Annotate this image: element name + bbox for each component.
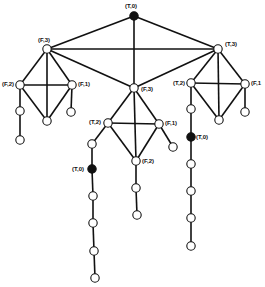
open-node xyxy=(155,120,163,128)
open-node xyxy=(89,192,97,200)
open-node xyxy=(241,80,249,88)
node-label: (F,1) xyxy=(165,120,177,127)
open-node xyxy=(88,140,96,148)
edge xyxy=(191,83,245,84)
node-label: (T,0) xyxy=(125,3,137,10)
open-node xyxy=(43,45,51,53)
nodes xyxy=(16,12,249,282)
edge xyxy=(218,49,245,84)
node-label: (F,1) xyxy=(78,81,90,88)
open-node xyxy=(215,116,223,124)
graph-diagram: (T,0)(F,3)(T,3)(F,3)(F,2)(F,1)(T,2)(F,1(… xyxy=(0,0,265,287)
edge xyxy=(108,88,134,123)
edge xyxy=(134,88,136,161)
open-node xyxy=(67,108,75,116)
filled-node xyxy=(187,133,195,141)
open-node xyxy=(16,136,24,144)
open-node xyxy=(214,45,222,53)
filled-node xyxy=(130,12,138,20)
edge xyxy=(134,88,159,124)
open-node xyxy=(187,105,195,113)
open-node xyxy=(16,81,24,89)
open-node xyxy=(133,211,141,219)
node-label: (T,2) xyxy=(173,80,185,87)
open-node xyxy=(68,81,76,89)
open-node xyxy=(89,219,97,227)
edge xyxy=(134,16,218,49)
open-node xyxy=(90,247,98,255)
node-label: (F,2) xyxy=(2,81,14,88)
node-label: (T,0) xyxy=(72,166,84,173)
open-node xyxy=(132,157,140,165)
edge xyxy=(108,123,136,161)
open-node xyxy=(187,214,195,222)
open-node xyxy=(16,107,24,115)
edge xyxy=(191,49,218,83)
filled-node xyxy=(88,165,96,173)
edge xyxy=(47,16,134,49)
edges xyxy=(20,16,245,278)
node-label: (F,3) xyxy=(38,37,50,44)
node-label: (F,2) xyxy=(142,158,154,165)
edge xyxy=(20,49,47,85)
open-node xyxy=(104,119,112,127)
open-node xyxy=(132,184,140,192)
open-node xyxy=(169,143,177,151)
edge xyxy=(108,123,159,124)
open-node xyxy=(130,84,138,92)
open-node xyxy=(187,187,195,195)
edge xyxy=(20,85,47,121)
open-node xyxy=(43,117,51,125)
node-label: (T,2) xyxy=(89,119,101,126)
edge xyxy=(136,124,159,161)
open-node xyxy=(91,274,99,282)
edge xyxy=(218,49,219,120)
open-node xyxy=(241,108,249,116)
open-node xyxy=(187,242,195,250)
edge xyxy=(191,83,219,120)
open-node xyxy=(187,79,195,87)
open-node xyxy=(187,160,195,168)
node-label: (F,1 xyxy=(251,80,261,87)
node-label: (T,3) xyxy=(225,41,237,48)
node-label: (F,3) xyxy=(141,86,153,93)
node-label: (T,0) xyxy=(196,134,208,141)
